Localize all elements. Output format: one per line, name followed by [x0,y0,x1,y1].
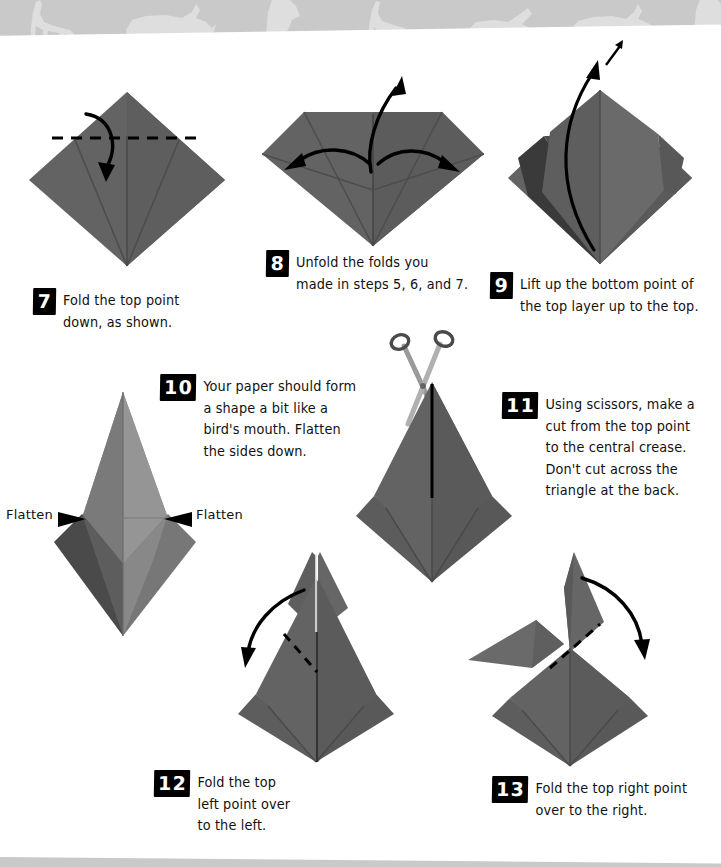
step-9-caption: 9 Lift up the bottom point of the top la… [490,272,721,317]
step-10-caption: 10 Your paper should form a shape a bit … [160,374,365,462]
step-9-number: 9 [490,272,513,299]
step-10-number: 10 [160,374,197,401]
step-8-text: Unfold the folds you made in steps 5, 6,… [296,250,468,295]
step-11-text: Using scissors, make a cut from the top … [545,392,694,502]
step-10-text: Your paper should form a shape a bit lik… [203,374,356,462]
step-8-diagram [258,80,488,250]
flatten-label-right: Flatten [196,507,243,522]
step-7-caption: 7 Fold the top point down, as shown. [33,288,243,333]
step-8-number: 8 [266,250,289,277]
step-11-number: 11 [502,392,539,419]
flatten-label-left: Flatten [6,507,53,522]
page-corner-arrow-icon [603,40,625,66]
step-12-number: 12 [154,770,191,797]
step-7-text: Fold the top point down, as shown. [63,288,179,333]
step-7-number: 7 [33,288,56,315]
step-12-caption: 12 Fold the top left point over to the l… [154,770,344,837]
step-9-text: Lift up the bottom point of the top laye… [520,272,699,317]
step-7-diagram [20,88,235,268]
step-13-text: Fold the top right point over to the rig… [535,776,687,821]
step-12-text: Fold the top left point over to the left… [197,770,290,837]
step-9-diagram [488,72,713,272]
step-8-caption: 8 Unfold the folds you made in steps 5, … [266,250,496,295]
step-13-number: 13 [492,776,529,803]
step-13-caption: 13 Fold the top right point over to the … [492,776,721,821]
step-12-diagram [232,548,427,768]
step-13-diagram [452,548,667,773]
step-11-caption: 11 Using scissors, make a cut from the t… [502,392,717,502]
